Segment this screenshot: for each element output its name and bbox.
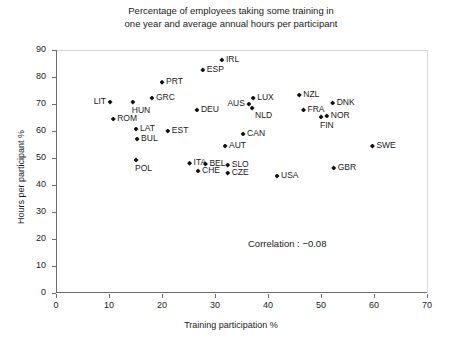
y-axis-tick-mark xyxy=(52,50,56,51)
y-axis-tick-mark xyxy=(52,239,56,240)
y-axis-tick-mark xyxy=(52,131,56,132)
x-axis-tick-mark xyxy=(374,294,375,298)
data-point-label: NZL xyxy=(303,90,319,99)
data-point-label: USA xyxy=(281,171,298,180)
data-point-label: CZE xyxy=(232,168,249,177)
data-point-label: POL xyxy=(135,164,152,173)
chart-title: Percentage of employees taking some trai… xyxy=(0,4,462,30)
y-axis-tick-mark xyxy=(52,158,56,159)
x-axis-tick-label: 60 xyxy=(359,300,389,310)
data-point-label: ROM xyxy=(117,114,137,123)
x-axis-tick-label: 40 xyxy=(253,300,283,310)
data-point-label: CHE xyxy=(202,166,220,175)
x-axis-tick-label: 50 xyxy=(306,300,336,310)
plot-frame-right-edge xyxy=(427,50,428,293)
data-point-label: FIN xyxy=(320,121,334,130)
data-point-label: LUX xyxy=(257,93,274,102)
data-point-label: PRT xyxy=(166,77,183,86)
y-axis-tick-label: 90 xyxy=(16,44,46,54)
x-axis-tick-mark xyxy=(427,294,428,298)
data-point-label: ESP xyxy=(207,65,224,74)
y-axis-label: Hours per participant % xyxy=(16,129,26,223)
x-axis-tick-mark xyxy=(162,294,163,298)
data-point-label: NLD xyxy=(255,111,272,120)
scatter-chart-figure: Percentage of employees taking some trai… xyxy=(0,0,462,339)
y-axis-tick-mark xyxy=(52,212,56,213)
data-point-label: SWE xyxy=(376,141,395,150)
y-axis-tick-label: 10 xyxy=(16,260,46,270)
x-axis-tick-mark xyxy=(215,294,216,298)
correlation-annotation: Correlation : −0.08 xyxy=(248,238,326,249)
data-point-label: LAT xyxy=(140,124,155,133)
x-axis-tick-mark xyxy=(268,294,269,298)
data-point-label: NOR xyxy=(331,111,350,120)
x-axis-tick-label: 10 xyxy=(94,300,124,310)
data-point-label: AUS xyxy=(227,99,244,108)
y-axis-tick-label: 20 xyxy=(16,233,46,243)
data-point-label: BUL xyxy=(141,134,158,143)
y-axis-tick-mark xyxy=(52,77,56,78)
y-axis-tick-label: 80 xyxy=(16,71,46,81)
x-axis-tick-mark xyxy=(321,294,322,298)
data-point-label: FRA xyxy=(308,105,325,114)
data-point-label: CAN xyxy=(247,129,265,138)
chart-title-line-1: Percentage of employees taking some trai… xyxy=(0,4,462,17)
x-axis-label: Training participation % xyxy=(0,320,462,330)
data-point-label: GRC xyxy=(156,93,175,102)
y-axis-tick-label: 0 xyxy=(16,287,46,297)
y-axis-tick-mark xyxy=(52,104,56,105)
data-point-label: DNK xyxy=(337,98,355,107)
x-axis-tick-label: 0 xyxy=(41,300,71,310)
data-point-label: IRL xyxy=(226,55,239,64)
y-axis-tick-label: 70 xyxy=(16,98,46,108)
x-axis-tick-mark xyxy=(109,294,110,298)
x-axis-tick-label: 20 xyxy=(147,300,177,310)
y-axis-tick-mark xyxy=(52,266,56,267)
x-axis-tick-label: 30 xyxy=(200,300,230,310)
data-point-label: AUT xyxy=(229,141,246,150)
x-axis-tick-mark xyxy=(56,294,57,298)
y-axis-tick-mark xyxy=(52,185,56,186)
data-point-label: LIT xyxy=(94,97,106,106)
chart-title-line-2: one year and average annual hours per pa… xyxy=(0,17,462,30)
data-point-label: DEU xyxy=(201,105,219,114)
data-point-label: GBR xyxy=(338,163,356,172)
data-point-label: EST xyxy=(172,126,189,135)
x-axis-tick-label: 70 xyxy=(412,300,442,310)
